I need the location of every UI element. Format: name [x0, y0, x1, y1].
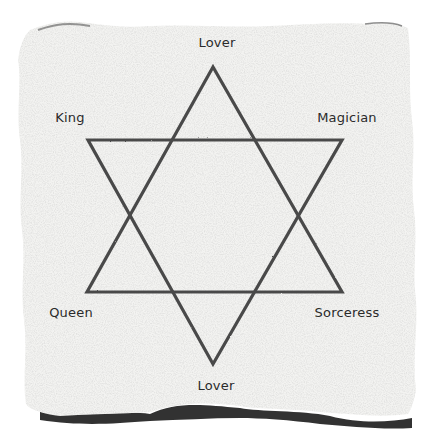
label-top-lover: Lover: [198, 35, 235, 51]
label-magician: Magician: [317, 110, 377, 126]
label-bottom-lover: Lover: [197, 378, 234, 394]
label-queen: Queen: [49, 305, 93, 321]
label-sorceress: Sorceress: [315, 305, 380, 321]
label-king: King: [55, 110, 84, 126]
hexagram-diagram: Lover King Magician Queen Sorceress Love…: [0, 0, 434, 445]
